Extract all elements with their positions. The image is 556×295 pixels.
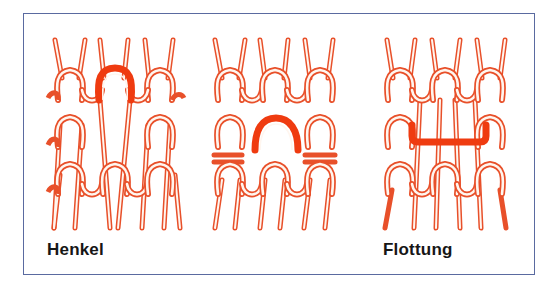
- panel-middle: [214, 40, 335, 228]
- panel-henkel: [48, 40, 184, 228]
- stitch-loops: [217, 70, 333, 195]
- stitch-loops: [48, 70, 184, 195]
- panel-label-flottung: Flottung: [383, 240, 453, 260]
- panel-label-henkel: Henkel: [47, 240, 104, 260]
- panel-flottung: [385, 40, 506, 228]
